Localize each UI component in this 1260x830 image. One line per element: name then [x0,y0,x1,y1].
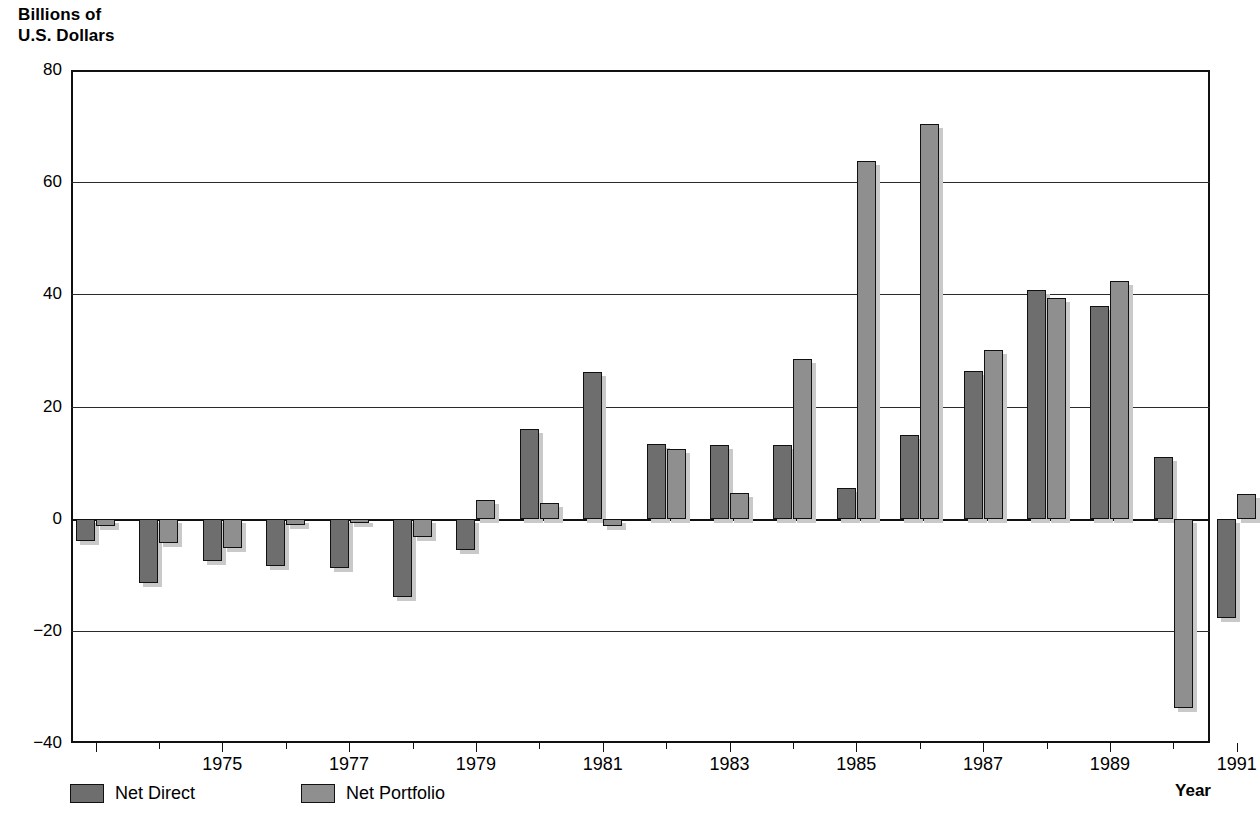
legend-item-net-direct[interactable]: Net Direct [70,784,195,803]
bar-face [159,519,178,543]
bar-portfolio-1982 [667,449,686,519]
x-tick [730,743,731,752]
bar-face [540,503,559,519]
bar-portfolio-1989 [1110,281,1129,519]
bar-portfolio-1978 [413,519,432,538]
bar-face [393,519,412,598]
x-tick [539,743,540,749]
y-tick-label: −20 [10,622,62,639]
bar-face [266,519,285,567]
x-tick-label: 1977 [329,753,369,775]
bar-portfolio-1981 [603,519,622,526]
bar-series-container [71,70,1210,743]
y-tick-label: 40 [10,285,62,302]
bar-portfolio-1983 [730,493,749,519]
bar-direct-1982 [647,444,666,519]
bar-portfolio-1979 [476,500,495,519]
bar-face [476,500,495,519]
bar-direct-1975 [203,519,222,561]
x-tick-label: 1991 [1217,753,1257,775]
bar-direct-1987 [964,371,983,519]
x-tick-label: 1979 [456,753,496,775]
x-tick [222,743,223,752]
bar-direct-1978 [393,519,412,598]
y-axis-title: Billions of U.S. Dollars [18,4,115,46]
bar-face [710,445,729,519]
bar-face [730,493,749,519]
bar-portfolio-1988 [1047,298,1066,518]
bar-face [603,519,622,526]
bar-direct-1990 [1154,457,1173,519]
bar-direct-1976 [266,519,285,567]
bar-portfolio-1990 [1174,519,1193,709]
bar-face [793,359,812,518]
bar-direct-1983 [710,445,729,519]
bar-face [773,445,792,519]
x-tick [603,743,604,752]
legend-swatch-net-direct [70,784,104,803]
bar-portfolio-1987 [984,350,1003,518]
bar-face [1217,519,1236,619]
bar-face [837,488,856,518]
bar-face [139,519,158,583]
y-tick-label: 60 [10,173,62,190]
bar-face [456,519,475,550]
x-tick-label: 1989 [1090,753,1130,775]
x-tick [1173,743,1174,749]
bar-shadow [354,523,373,527]
x-tick [793,743,794,749]
y-axis-tick-labels: 806040200−20−40 [0,70,62,743]
bar-portfolio-1991 [1237,494,1256,519]
bar-direct-1991 [1217,519,1236,619]
x-tick-label: 1983 [709,753,749,775]
bar-face [1047,298,1066,518]
bar-direct-1974 [139,519,158,583]
bar-face [203,519,222,561]
bar-face [900,435,919,519]
bar-face [1110,281,1129,519]
bar-face [964,371,983,519]
bar-face [350,519,369,523]
bar-face [286,519,305,526]
x-axis-ticks [71,743,1210,753]
bar-portfolio-1980 [540,503,559,519]
x-tick-label: 1975 [202,753,242,775]
x-tick [96,743,97,752]
y-tick-label: 0 [10,510,62,527]
x-tick [666,743,667,749]
bar-face [583,372,602,519]
bar-direct-1973 [76,519,95,541]
bar-direct-1984 [773,445,792,519]
bar-direct-1979 [456,519,475,550]
x-axis-tick-labels: 197519771979198119831985198719891991 [0,753,1227,779]
x-tick-label: 1987 [963,753,1003,775]
plot-area [71,70,1210,743]
bar-portfolio-1976 [286,519,305,526]
bar-face [667,449,686,519]
x-tick-label: 1985 [836,753,876,775]
legend-item-net-portfolio[interactable]: Net Portfolio [301,784,445,803]
x-tick [920,743,921,749]
bar-face [1090,306,1109,519]
y-tick-label: −40 [10,734,62,751]
bar-direct-1986 [900,435,919,519]
bar-face [1237,494,1256,519]
bar-face [76,519,95,541]
bar-face [647,444,666,519]
bar-direct-1981 [583,372,602,519]
bar-face [96,519,115,526]
x-tick [476,743,477,752]
y-tick-label: 80 [10,61,62,78]
legend-label: Net Portfolio [346,784,445,802]
bar-portfolio-1986 [920,124,939,519]
bar-face [1027,290,1046,518]
bar-face [1174,519,1193,709]
bar-direct-1988 [1027,290,1046,518]
bar-direct-1985 [837,488,856,518]
x-tick [983,743,984,752]
x-tick [349,743,350,752]
bar-portfolio-1985 [857,161,876,518]
bar-face [857,161,876,518]
bar-portfolio-1974 [159,519,178,543]
